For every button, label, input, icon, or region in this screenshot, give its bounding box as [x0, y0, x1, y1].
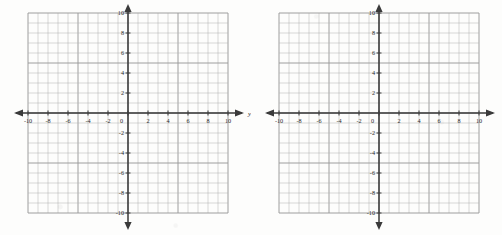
x-tick-label: 10	[476, 117, 482, 124]
y-tick-label: -4	[370, 149, 375, 156]
x-axis-arrow-right	[486, 109, 495, 116]
y-tick-label: -6	[370, 169, 375, 176]
x-tick-label: -10	[24, 117, 32, 124]
x-axis-arrow-left	[265, 109, 274, 116]
y-tick-label: -4	[119, 149, 124, 156]
y-tick-label: -10	[116, 209, 124, 216]
x-tick-label: -2	[105, 117, 110, 124]
y-tick-label: -6	[119, 169, 124, 176]
x-axis-arrow-left	[14, 109, 23, 116]
x-tick-label: 6	[437, 117, 440, 124]
x-tick-label: 6	[186, 117, 189, 124]
x-tick-label: -4	[336, 117, 341, 124]
y-tick-label: -10	[367, 209, 375, 216]
y-tick-label: 4	[372, 69, 375, 76]
x-tick-label: 2	[146, 117, 149, 124]
y-tick-label: -2	[119, 129, 124, 136]
coordinate-grid-2-clip: -10-8-6-4-20246810108642-2-4-6-8-10	[251, 0, 502, 235]
y-tick-label: -8	[370, 189, 375, 196]
x-tick-label: 10	[225, 117, 231, 124]
graph-2-svg: -10-8-6-4-20246810108642-2-4-6-8-10	[251, 0, 502, 235]
x-tick-label: 8	[457, 117, 460, 124]
y-tick-label: 6	[121, 49, 124, 56]
y-tick-label: 2	[121, 89, 124, 96]
x-axis-arrow-right	[235, 109, 244, 116]
y-tick-label: 10	[369, 9, 375, 16]
y-tick-label: 2	[372, 89, 375, 96]
x-tick-label: -6	[65, 117, 70, 124]
x-tick-label: -6	[316, 117, 321, 124]
x-tick-label: -2	[356, 117, 361, 124]
x-tick-label: -8	[296, 117, 301, 124]
y-tick-label: 10	[118, 9, 124, 16]
y-tick-label: -8	[119, 189, 124, 196]
x-tick-label: 8	[206, 117, 209, 124]
x-tick-label: 4	[166, 117, 169, 124]
graph-1-svg: -10-8-6-4-20246810108642-2-4-6-8-10y	[0, 0, 251, 235]
y-tick-label: 8	[372, 29, 375, 36]
x-tick-label: 2	[397, 117, 400, 124]
coordinate-grid-2: -10-8-6-4-20246810108642-2-4-6-8-10	[251, 0, 502, 235]
x-tick-label: -8	[45, 117, 50, 124]
x-tick-label: 0	[371, 117, 374, 124]
x-tick-label: -10	[275, 117, 283, 124]
y-axis-arrow-up	[124, 4, 131, 12]
y-tick-label: 8	[121, 29, 124, 36]
x-tick-label: 4	[417, 117, 420, 124]
x-tick-label: -4	[85, 117, 90, 124]
coordinate-grid-1: -10-8-6-4-20246810108642-2-4-6-8-10y	[0, 0, 251, 235]
y-axis-arrow-down	[375, 222, 382, 230]
x-tick-label: 0	[120, 117, 123, 124]
y-axis-arrow-down	[124, 222, 131, 230]
y-axis-arrow-up	[375, 4, 382, 12]
y-tick-label: -2	[370, 129, 375, 136]
y-tick-label: 4	[121, 69, 124, 76]
y-tick-label: 6	[372, 49, 375, 56]
